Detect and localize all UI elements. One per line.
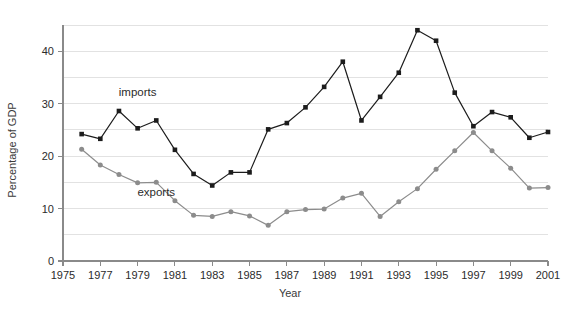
data-point-exports-1979: [135, 180, 140, 185]
data-point-exports-1982: [191, 213, 196, 218]
data-point-exports-2001: [546, 185, 551, 190]
x-tick-label-1975: 1975: [51, 269, 75, 281]
data-point-imports-2000: [527, 135, 532, 140]
data-point-exports-1978: [116, 172, 121, 177]
data-point-exports-1988: [303, 207, 308, 212]
data-point-exports-1989: [322, 207, 327, 212]
data-point-imports-1980: [154, 118, 159, 123]
data-point-imports-2001: [546, 130, 551, 135]
data-point-imports-1978: [117, 109, 122, 114]
y-tick-label-10: 10: [42, 203, 54, 215]
x-tick-label-1999: 1999: [498, 269, 522, 281]
data-point-imports-1986: [266, 127, 271, 132]
data-point-exports-1986: [266, 223, 271, 228]
data-point-exports-1983: [210, 214, 215, 219]
series-annotation-exports: exports: [137, 186, 175, 198]
data-point-imports-1984: [229, 170, 234, 175]
data-point-exports-1980: [154, 180, 159, 185]
data-point-imports-1991: [359, 118, 364, 123]
x-tick-label-2001: 2001: [536, 269, 560, 281]
x-tick-label-1989: 1989: [312, 269, 336, 281]
x-tick-label-1979: 1979: [125, 269, 149, 281]
x-tick-label-1991: 1991: [349, 269, 373, 281]
data-point-imports-1988: [303, 105, 308, 110]
x-tick-label-1995: 1995: [424, 269, 448, 281]
data-point-imports-1985: [247, 170, 252, 175]
data-point-imports-1981: [173, 148, 178, 153]
chart-canvas: 1975197719791981198319851987198919911993…: [0, 0, 568, 312]
data-point-exports-2000: [527, 186, 532, 191]
data-point-imports-1997: [471, 124, 476, 129]
data-point-imports-1993: [396, 70, 401, 75]
data-point-imports-1994: [415, 28, 420, 33]
data-point-imports-1977: [98, 137, 103, 142]
x-tick-label-1993: 1993: [387, 269, 411, 281]
data-point-imports-1998: [490, 110, 495, 115]
y-axis-title: Percentage of GDP: [6, 102, 18, 197]
data-point-exports-1997: [471, 130, 476, 135]
data-point-exports-1990: [340, 196, 345, 201]
data-point-exports-1998: [490, 148, 495, 153]
data-point-exports-1976: [79, 147, 84, 152]
data-point-imports-1987: [285, 121, 290, 126]
data-point-exports-1993: [396, 199, 401, 204]
y-tick-label-20: 20: [42, 150, 54, 162]
data-point-exports-1987: [284, 209, 289, 214]
x-tick-label-1981: 1981: [163, 269, 187, 281]
data-point-exports-1992: [378, 214, 383, 219]
y-tick-label-0: 0: [48, 255, 54, 267]
data-point-imports-1976: [79, 132, 84, 137]
data-point-imports-1995: [434, 38, 439, 43]
x-tick-label-1977: 1977: [88, 269, 112, 281]
data-point-imports-1989: [322, 85, 327, 90]
data-point-imports-1979: [135, 126, 140, 131]
x-axis-title: Year: [279, 287, 302, 299]
data-point-exports-1985: [247, 213, 252, 218]
data-point-exports-1984: [228, 209, 233, 214]
x-tick-label-1997: 1997: [461, 269, 485, 281]
x-tick-label-1983: 1983: [200, 269, 224, 281]
data-point-imports-1983: [210, 183, 215, 188]
data-point-exports-1996: [452, 148, 457, 153]
x-tick-label-1987: 1987: [275, 269, 299, 281]
data-point-exports-1999: [508, 166, 513, 171]
series-annotation-imports: imports: [119, 86, 157, 98]
data-point-exports-1995: [434, 167, 439, 172]
data-point-imports-1992: [378, 95, 383, 100]
data-point-imports-1990: [341, 59, 346, 64]
y-tick-label-30: 30: [42, 98, 54, 110]
data-point-imports-1999: [508, 115, 513, 120]
data-point-exports-1981: [172, 198, 177, 203]
gdp-trade-chart: 1975197719791981198319851987198919911993…: [0, 0, 568, 312]
data-point-exports-1994: [415, 186, 420, 191]
x-tick-label-1985: 1985: [237, 269, 261, 281]
data-point-exports-1991: [359, 191, 364, 196]
data-point-imports-1982: [191, 172, 196, 177]
y-tick-label-40: 40: [42, 45, 54, 57]
data-point-imports-1996: [452, 90, 457, 95]
data-point-exports-1977: [98, 163, 103, 168]
